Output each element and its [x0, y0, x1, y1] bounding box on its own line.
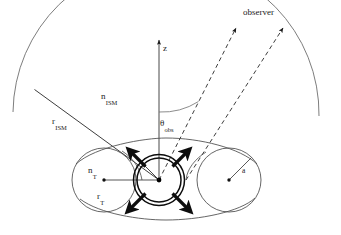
torus-left-center-dot: [102, 178, 105, 181]
torus-minor-radius-label: a: [242, 167, 245, 175]
theta-obs-subscript: obs: [165, 126, 174, 133]
n-ism-base: n: [101, 91, 106, 101]
ism-boundary-arc: [13, 0, 319, 116]
z-axis-label: z: [163, 44, 167, 53]
torus-lower-outline: [80, 198, 255, 220]
r-torus-label: rT: [97, 186, 104, 205]
torus-right-center-dot: [227, 178, 230, 181]
theta-obs-label: θobs: [160, 113, 173, 132]
r-ism-radius-line: [35, 90, 160, 181]
n-ism-label: nISM: [101, 86, 117, 105]
theta-obs-base: θ: [160, 118, 164, 128]
r-ism-subscript: ISM: [55, 124, 67, 131]
n-ism-subscript: ISM: [106, 99, 118, 106]
r-torus-subscript: T: [100, 199, 104, 206]
observer-label: observer: [243, 8, 274, 17]
outflow-arrow-se: [173, 194, 192, 213]
theta-obs-angle-arc: [159, 102, 199, 113]
outflow-arrow-ne: [173, 149, 191, 167]
outflow-arrow-sw: [127, 194, 146, 213]
torus-minor-radius-line: [229, 158, 252, 181]
line-of-sight-outer-dashed: [186, 28, 283, 180]
r-ism-label: rISM: [52, 111, 67, 130]
torus-inner-contour-right: [186, 152, 206, 180]
n-torus-base: n: [88, 165, 93, 175]
n-torus-subscript: T: [93, 173, 97, 180]
n-torus-label: nT: [88, 160, 96, 179]
figure-root: observer z nISM rISM θobs nT rT a: [0, 0, 341, 235]
